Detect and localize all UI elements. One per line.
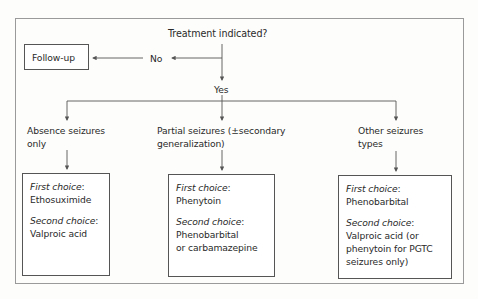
second-choice-drug: Phenobarbital <box>176 228 267 241</box>
category-label-line: Absence seizures <box>27 124 105 137</box>
category-label-line: Other seizures <box>358 124 423 137</box>
second-choice-label: Second choice <box>346 217 411 228</box>
first-choice-drug: Phenytoin <box>176 194 267 207</box>
first-choice-drug: Ethosuximide <box>30 193 102 206</box>
follow-up-box: Follow-up <box>24 44 89 70</box>
treatment-box-partial: First choice: Phenytoin Second choice: P… <box>168 174 275 277</box>
follow-up-label: Follow-up <box>32 52 75 63</box>
treatment-box-absence: First choice: Ethosuximide Second choice… <box>22 173 110 276</box>
category-other-label: Other seizures types <box>358 124 423 150</box>
category-absence-label: Absence seizures only <box>27 124 105 150</box>
second-choice-label: Second choice <box>176 216 241 227</box>
second-choice-drug: seizures only) <box>346 255 444 268</box>
first-choice-label: First choice <box>30 181 81 192</box>
first-choice-drug: Phenobarbital <box>346 195 444 208</box>
second-choice-drug: phenytoin for PGTC <box>346 242 444 255</box>
second-choice-label: Second choice <box>30 215 95 226</box>
category-label-line: generalization) <box>157 137 285 150</box>
second-choice-drug: Valproic acid <box>30 227 102 240</box>
category-partial-label: Partial seizures (±secondary generalizat… <box>157 124 285 150</box>
first-choice-label: First choice <box>176 182 227 193</box>
category-label-line: only <box>27 137 105 150</box>
root-question: Treatment indicated? <box>168 27 267 40</box>
category-label-line: types <box>358 137 423 150</box>
second-choice-drug: or carbamazepine <box>176 241 267 254</box>
second-choice-drug: Valproic acid (or <box>346 229 444 242</box>
treatment-box-other: First choice: Phenobarbital Second choic… <box>338 175 452 279</box>
no-label: No <box>150 52 162 65</box>
category-label-line: Partial seizures (±secondary <box>157 124 285 137</box>
first-choice-label: First choice <box>346 183 397 194</box>
yes-label: Yes <box>214 83 229 96</box>
